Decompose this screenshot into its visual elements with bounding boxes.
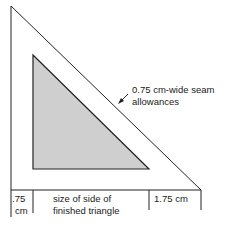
diagram-canvas <box>0 0 244 231</box>
arrow-icon <box>118 94 128 104</box>
left-dimension-line2: cm <box>15 205 28 217</box>
middle-dimension-line2: finished triangle <box>53 205 120 217</box>
left-dimension-line1: .75 <box>12 193 25 205</box>
middle-dimension-line1: size of side of <box>53 193 111 205</box>
seam-allowance-label-line1: 0.75 cm-wide seam <box>132 84 214 96</box>
inner-finished-triangle <box>33 55 149 169</box>
right-dimension-label: 1.75 cm <box>154 193 188 205</box>
seam-allowance-label-line2: allowances <box>132 96 179 108</box>
